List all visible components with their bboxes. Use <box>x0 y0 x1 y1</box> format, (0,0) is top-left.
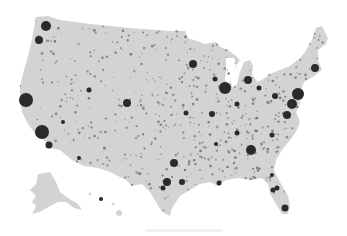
city-dot <box>244 76 252 84</box>
city-dot <box>235 131 240 136</box>
lake-michigan <box>225 58 236 84</box>
city-dot <box>161 186 166 191</box>
city-dot <box>270 173 274 177</box>
city-dot <box>179 179 185 185</box>
us-population-map <box>0 0 347 236</box>
city-dot <box>19 93 33 107</box>
city-dot <box>257 86 262 91</box>
city-dot <box>87 88 92 93</box>
city-dot <box>163 178 171 186</box>
city-dot <box>77 156 81 160</box>
city-dot <box>275 186 280 191</box>
city-dot <box>214 142 218 146</box>
city-dot <box>270 133 275 138</box>
city-dot <box>287 99 297 109</box>
city-dot <box>170 159 178 167</box>
city-dot <box>213 77 218 82</box>
city-dot <box>35 36 43 44</box>
alaska-landmass <box>30 172 82 214</box>
city-dot <box>209 111 215 117</box>
city-dot <box>189 60 197 68</box>
contiguous-us-landmass <box>20 16 328 216</box>
city-dot <box>283 111 291 119</box>
city-dot <box>219 82 231 94</box>
city-dot <box>235 102 240 107</box>
city-dot <box>292 88 304 100</box>
city-dot <box>123 99 131 107</box>
map-canvas <box>0 0 347 236</box>
city-dot <box>282 205 289 212</box>
city-dot <box>311 64 319 72</box>
city-dot <box>246 145 256 155</box>
faint-caption <box>145 229 223 232</box>
city-dot <box>61 120 65 124</box>
city-dot <box>46 142 53 149</box>
city-dot <box>272 93 278 99</box>
city-dot <box>35 125 49 139</box>
city-dot <box>184 111 189 116</box>
city-dot <box>217 181 222 186</box>
city-dot <box>99 197 103 201</box>
city-dot <box>41 21 51 31</box>
hawaii-islands <box>89 193 123 217</box>
